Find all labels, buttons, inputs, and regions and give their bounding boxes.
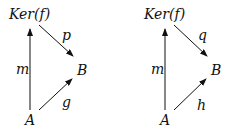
- object-b-left: B: [77, 63, 87, 77]
- object-ker-left: Ker(f): [9, 7, 50, 21]
- morphism-h-right: h: [197, 98, 206, 112]
- object-b-right: B: [211, 63, 221, 77]
- object-a-right: A: [160, 113, 170, 127]
- morphism-m-left: m: [16, 62, 29, 76]
- morphism-q-right: q: [198, 28, 207, 42]
- object-ker-right: Ker(f): [144, 7, 185, 21]
- morphism-p-left: p: [62, 28, 71, 42]
- object-a-left: A: [25, 113, 35, 127]
- morphism-m-right: m: [151, 62, 164, 76]
- morphism-g-left: g: [62, 95, 71, 109]
